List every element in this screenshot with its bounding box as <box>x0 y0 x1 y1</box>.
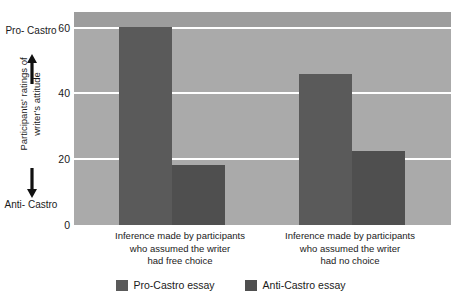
bar-anti-castro-free-choice <box>172 165 225 225</box>
plot-top-band <box>74 12 451 27</box>
pole-bottom-line1: Anti- <box>5 199 26 210</box>
down-arrow-icon <box>26 168 38 198</box>
legend-label-pro-castro: Pro-Castro essay <box>134 279 215 291</box>
y-tick-60: 60 <box>52 23 70 34</box>
legend-item-pro-castro: Pro-Castro essay <box>116 279 215 291</box>
plot-area <box>74 12 451 225</box>
legend-swatch-icon-anti-castro <box>245 280 257 291</box>
y-tick-40: 40 <box>52 88 70 99</box>
x-category-label-no-choice: Inference made by participants who assum… <box>250 230 450 268</box>
bar-pro-castro-no-choice <box>299 74 352 225</box>
y-axis-tick-labels: 60 40 20 0 <box>50 0 70 303</box>
bar-chart-figure: Pro- Castro Participants' ratings of wri… <box>0 0 461 303</box>
y-tick-0: 0 <box>52 220 70 231</box>
cat2-line1: Inference made by participants <box>250 230 450 243</box>
legend-swatch-icon-pro-castro <box>116 280 128 291</box>
y-axis-title: Participants' ratings of writer's attitu… <box>18 34 46 174</box>
y-axis-title-line1: Participants' ratings of <box>18 34 31 174</box>
y-axis-title-line2: writer's attitude <box>31 34 44 174</box>
cat2-line3: had no choice <box>250 255 450 268</box>
legend-label-anti-castro: Anti-Castro essay <box>263 279 346 291</box>
bar-anti-castro-no-choice <box>352 151 405 225</box>
y-tick-20: 20 <box>52 154 70 165</box>
legend-item-anti-castro: Anti-Castro essay <box>245 279 346 291</box>
bar-pro-castro-free-choice <box>119 27 172 225</box>
chart-legend: Pro-Castro essay Anti-Castro essay <box>0 279 461 291</box>
cat2-line2: who assumed the writer <box>250 243 450 256</box>
